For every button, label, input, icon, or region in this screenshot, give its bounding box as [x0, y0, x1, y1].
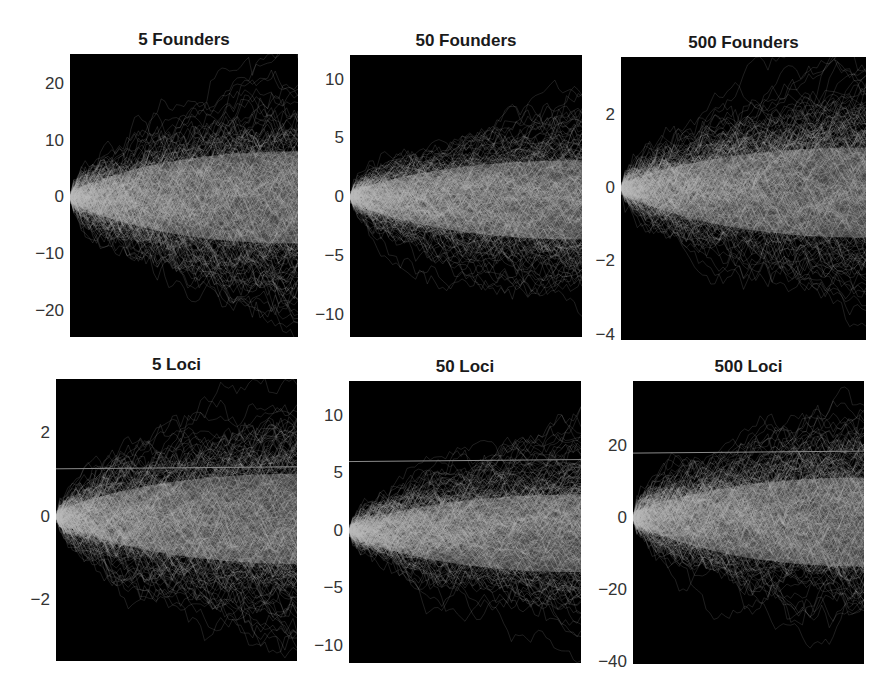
y-tick-label: 20	[20, 75, 64, 93]
y-tick-label: 5	[299, 464, 343, 482]
y-tick-label: 2	[6, 424, 50, 442]
y-tick-label: 0	[583, 509, 627, 527]
y-tick-label: −40	[583, 653, 627, 671]
y-tick-label: 20	[583, 437, 627, 455]
y-tick-label: −10	[300, 306, 344, 324]
plot-area	[349, 381, 581, 663]
y-tick-label: 0	[20, 188, 64, 206]
y-tick-label: 10	[300, 71, 344, 89]
y-tick-label: 5	[300, 129, 344, 147]
panel-title: 50 Loci	[349, 357, 581, 377]
y-tick-label: −10	[20, 245, 64, 263]
y-tick-label: 10	[20, 132, 64, 150]
trajectories	[349, 381, 581, 663]
y-tick-label: 0	[299, 522, 343, 540]
plot-area	[621, 57, 866, 340]
y-tick-label: −5	[300, 247, 344, 265]
y-tick-label: −20	[583, 581, 627, 599]
y-tick-label: −4	[571, 326, 615, 344]
panel-title: 5 Loci	[56, 355, 297, 375]
panel-title: 5 Founders	[70, 30, 298, 50]
panel-title: 500 Loci	[633, 357, 864, 377]
y-tick-label: 2	[571, 106, 615, 124]
y-tick-label: −20	[20, 302, 64, 320]
y-tick-label: −10	[299, 637, 343, 655]
y-tick-label: 0	[300, 188, 344, 206]
y-tick-label: −5	[299, 579, 343, 597]
plot-area	[350, 55, 582, 337]
panel-title: 500 Founders	[621, 33, 866, 53]
trajectories	[350, 55, 582, 337]
trajectories	[56, 379, 297, 661]
y-tick-label: −2	[571, 252, 615, 270]
y-tick-label: 0	[6, 508, 50, 526]
plot-area	[633, 381, 864, 664]
reference-line	[349, 460, 581, 462]
y-tick-label: 10	[299, 407, 343, 425]
trajectories	[70, 54, 298, 337]
plot-area	[70, 54, 298, 337]
panel-title: 50 Founders	[350, 31, 582, 51]
y-tick-label: −2	[6, 591, 50, 609]
trajectories	[621, 57, 866, 340]
trajectories	[633, 381, 864, 664]
y-tick-label: 0	[571, 179, 615, 197]
plot-area	[56, 379, 297, 661]
